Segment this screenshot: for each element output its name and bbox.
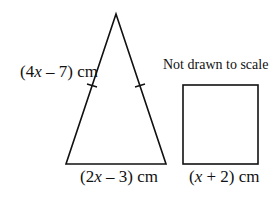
- label-part: (4: [20, 62, 34, 81]
- isosceles-triangle: [66, 14, 166, 164]
- label-part: (2: [80, 167, 94, 186]
- label-part: – 7) cm: [42, 62, 98, 81]
- variable-x: x: [94, 167, 102, 186]
- not-to-scale-note: Not drawn to scale: [163, 58, 268, 72]
- variable-x: x: [34, 62, 42, 81]
- triangle-base-label: (2x – 3) cm: [80, 168, 158, 185]
- square-side-label: (x + 2) cm: [189, 168, 260, 185]
- geometry-figure: (4x – 7) cm Not drawn to scale (2x – 3) …: [0, 0, 273, 201]
- label-part: + 2) cm: [202, 167, 259, 186]
- square: [183, 85, 258, 164]
- label-part: – 3) cm: [102, 167, 158, 186]
- triangle-side-label: (4x – 7) cm: [20, 63, 98, 80]
